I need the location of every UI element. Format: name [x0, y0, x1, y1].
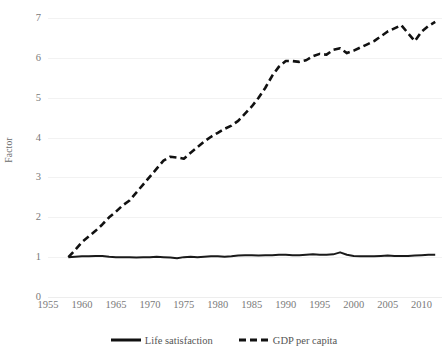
x-axis-tick-label: 1975 [173, 300, 194, 311]
y-axis-tick-labels: 01234567 [20, 18, 46, 297]
legend-label: Life satisfaction [145, 335, 213, 346]
legend-item[interactable]: Life satisfaction [111, 335, 213, 346]
x-axis-tick-label: 1990 [275, 300, 296, 311]
solid-line-icon [111, 335, 141, 345]
series-lines [48, 18, 442, 297]
y-axis-tick-label: 3 [20, 172, 46, 183]
y-axis-tick-label: 4 [20, 132, 46, 143]
x-axis-tick-label: 1995 [309, 300, 330, 311]
x-axis-tick-label: 1955 [38, 300, 59, 311]
legend-label: GDP per capita [273, 335, 337, 346]
y-axis-tick-label: 7 [20, 13, 46, 24]
legend-item[interactable]: GDP per capita [239, 335, 337, 346]
x-axis-tick-label: 2005 [377, 300, 398, 311]
y-axis-title: Factor [0, 0, 18, 300]
x-axis-tick-label: 1980 [207, 300, 228, 311]
chart-container: Factor 01234567 195519601965197019751980… [0, 0, 448, 353]
x-axis-tick-label: 1970 [139, 300, 160, 311]
y-axis-tick-label: 6 [20, 53, 46, 64]
series-line [68, 252, 435, 258]
y-axis-tick-label: 5 [20, 92, 46, 103]
x-axis-tick-label: 1985 [241, 300, 262, 311]
x-axis-tick-labels: 1955196019651970197519801985199019952000… [48, 300, 442, 316]
x-axis-tick-label: 1960 [71, 300, 92, 311]
x-axis-tick-label: 2010 [411, 300, 432, 311]
plot-area [48, 18, 442, 297]
chart-legend: Life satisfactionGDP per capita [0, 330, 448, 350]
gridline [48, 297, 442, 298]
y-axis-tick-label: 2 [20, 212, 46, 223]
y-axis-tick-label: 1 [20, 252, 46, 263]
dashed-line-icon [239, 335, 269, 345]
series-line [68, 22, 435, 257]
x-axis-tick-label: 1965 [105, 300, 126, 311]
y-axis-title-label: Factor [4, 137, 14, 162]
x-axis-tick-label: 2000 [343, 300, 364, 311]
